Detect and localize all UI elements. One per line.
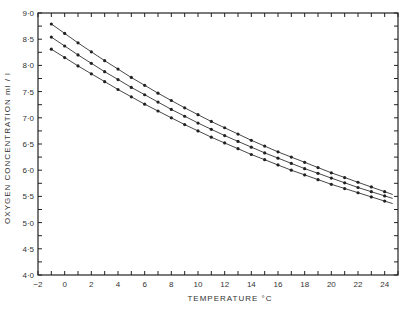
- data-point-marker: [50, 36, 53, 39]
- data-point-marker: [236, 147, 239, 150]
- data-point-marker: [90, 50, 93, 53]
- data-point-marker: [210, 136, 213, 139]
- data-point-marker: [50, 22, 53, 25]
- y-tick-label: 7·0: [22, 114, 34, 123]
- x-tick-label: 20: [327, 280, 336, 289]
- data-point-marker: [223, 126, 226, 129]
- x-tick-label: 0: [62, 280, 67, 289]
- series-line: [51, 37, 392, 198]
- data-point-marker: [90, 72, 93, 75]
- data-point-marker: [276, 150, 279, 153]
- data-point-marker: [196, 121, 199, 124]
- data-point-marker: [103, 59, 106, 62]
- data-point-marker: [210, 128, 213, 131]
- data-point-marker: [276, 157, 279, 160]
- x-tick-label: 12: [220, 280, 229, 289]
- y-axis-title: OXYGEN CONCENTRATION ml / l: [3, 72, 12, 224]
- data-point-marker: [370, 190, 373, 193]
- data-point-marker: [263, 151, 266, 154]
- x-tick-label: 16: [274, 280, 283, 289]
- data-point-marker: [196, 129, 199, 132]
- data-point-marker: [343, 176, 346, 179]
- y-tick-label: 6·5: [22, 140, 34, 149]
- data-point-marker: [50, 48, 53, 51]
- data-point-marker: [223, 141, 226, 144]
- data-point-marker: [130, 86, 133, 89]
- data-point-marker: [170, 99, 173, 102]
- data-point-marker: [383, 194, 386, 197]
- data-point-marker: [316, 166, 319, 169]
- data-point-marker: [103, 80, 106, 83]
- data-point-marker: [210, 120, 213, 123]
- y-tick-label: 7·5: [22, 88, 34, 97]
- x-tick-label: 2: [89, 280, 94, 289]
- data-point-marker: [370, 185, 373, 188]
- data-point-marker: [330, 176, 333, 179]
- y-tick-label: 6·0: [22, 166, 34, 175]
- x-axis-title: TEMPERATURE °C: [187, 294, 272, 303]
- y-tick-label: 8·0: [22, 61, 34, 70]
- data-point-marker: [356, 186, 359, 189]
- data-point-marker: [330, 183, 333, 186]
- x-tick-label: 18: [300, 280, 309, 289]
- data-point-marker: [116, 67, 119, 70]
- data-point-marker: [343, 187, 346, 190]
- data-point-marker: [303, 161, 306, 164]
- data-point-marker: [170, 116, 173, 119]
- data-point-marker: [290, 162, 293, 165]
- data-point-marker: [143, 93, 146, 96]
- data-series: [50, 22, 393, 203]
- data-point-marker: [156, 100, 159, 103]
- data-point-marker: [276, 163, 279, 166]
- data-point-marker: [223, 134, 226, 137]
- x-tick-label: 6: [142, 280, 147, 289]
- data-point-marker: [130, 76, 133, 79]
- data-point-marker: [183, 106, 186, 109]
- y-tick-label: 9·0: [22, 9, 34, 18]
- data-point-marker: [303, 167, 306, 170]
- y-tick-label: 4·0: [22, 271, 34, 280]
- x-tick-label: 24: [380, 280, 389, 289]
- data-point-marker: [236, 132, 239, 135]
- data-point-marker: [170, 108, 173, 111]
- data-point-marker: [250, 139, 253, 142]
- data-point-marker: [76, 53, 79, 56]
- x-tick-label: 10: [194, 280, 203, 289]
- y-tick-label: 5·5: [22, 192, 34, 201]
- x-tick-label: 22: [354, 280, 363, 289]
- data-point-marker: [250, 153, 253, 156]
- data-point-marker: [290, 156, 293, 159]
- data-point-marker: [76, 64, 79, 67]
- data-point-marker: [143, 103, 146, 106]
- data-point-marker: [330, 171, 333, 174]
- data-point-marker: [183, 123, 186, 126]
- data-point-marker: [63, 44, 66, 47]
- x-tick-label: 4: [116, 280, 121, 289]
- y-axis-ticks: 4·04·55·05·56·06·57·07·58·08·59·0: [22, 9, 398, 280]
- data-point-marker: [156, 109, 159, 112]
- series-lower: [50, 48, 393, 204]
- data-point-marker: [143, 84, 146, 87]
- data-point-marker: [356, 181, 359, 184]
- oxygen-temperature-chart: −2024681012141618202224 4·04·55·05·56·06…: [0, 0, 412, 316]
- data-point-marker: [103, 70, 106, 73]
- y-tick-label: 8·5: [22, 35, 34, 44]
- y-tick-label: 5·0: [22, 219, 34, 228]
- x-tick-label: −2: [33, 280, 43, 289]
- series-middle: [50, 36, 393, 199]
- x-tick-label: 8: [169, 280, 174, 289]
- data-point-marker: [116, 88, 119, 91]
- data-point-marker: [63, 32, 66, 35]
- data-point-marker: [356, 191, 359, 194]
- data-point-marker: [383, 200, 386, 203]
- data-point-marker: [183, 115, 186, 118]
- data-point-marker: [303, 173, 306, 176]
- data-point-marker: [316, 178, 319, 181]
- data-point-marker: [370, 195, 373, 198]
- series-line: [51, 24, 392, 195]
- x-axis-ticks: −2024681012141618202224: [33, 13, 398, 289]
- data-point-marker: [130, 95, 133, 98]
- data-point-marker: [116, 78, 119, 81]
- data-point-marker: [196, 113, 199, 116]
- data-point-marker: [290, 169, 293, 172]
